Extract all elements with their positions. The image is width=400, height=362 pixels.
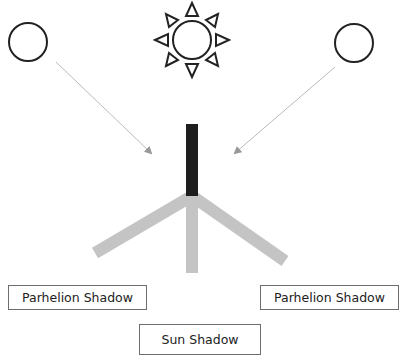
left-parhelion-shadow	[95, 196, 192, 253]
right-parhelion-icon	[335, 24, 373, 62]
sun-shadow-label: Sun Shadow	[139, 324, 261, 355]
pole	[186, 124, 198, 196]
left-arrow	[56, 62, 151, 153]
left-parhelion-icon	[9, 23, 47, 61]
right-parhelion-shadow-label: Parhelion Shadow	[260, 285, 399, 310]
right-arrow	[235, 67, 335, 153]
left-parhelion-shadow-label: Parhelion Shadow	[8, 285, 147, 310]
right-parhelion-shadow	[192, 196, 285, 261]
shadows	[95, 194, 285, 273]
sun-icon	[155, 3, 229, 77]
